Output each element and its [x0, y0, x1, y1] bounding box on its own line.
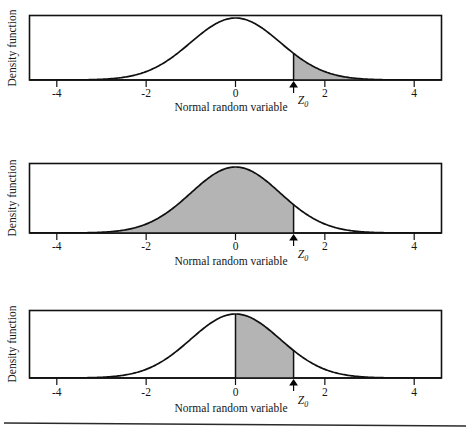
z0-arrow-head: [290, 380, 297, 385]
panel-1: -4-2024 Normal random variable Z0 Densit…: [6, 9, 442, 113]
panel-2-ticks: [57, 233, 414, 240]
panel-1-ticks: [57, 80, 414, 87]
axis-tick-label: 2: [322, 87, 328, 99]
axis-tick-label: -4: [52, 386, 62, 398]
panel-3-z0-label: Z0: [298, 394, 308, 409]
panel-2-z-subscript: 0: [304, 254, 308, 263]
axis-tick-label: 0: [233, 240, 239, 252]
axis-tick-label: 2: [322, 240, 328, 252]
axis-tick-label: 4: [411, 87, 417, 99]
axis-tick-label: 0: [233, 87, 239, 99]
panel-1-z-subscript: 0: [304, 100, 308, 109]
panel-1-tick-labels: -4-2024: [52, 87, 417, 99]
panel-1-z0-arrow: [290, 82, 297, 93]
axis-tick-label: 4: [411, 386, 417, 398]
panel-1-frame: [30, 16, 442, 81]
axis-tick-label: 0: [233, 386, 239, 398]
axis-tick-label: -2: [141, 87, 151, 99]
normal-distribution-figure: -4-2024 Normal random variable Z0 Densit…: [0, 0, 470, 434]
panel-2-y-axis-label: Density function: [6, 159, 19, 236]
panel-2-x-axis-label: Normal random variable: [174, 255, 287, 267]
panel-3-x-axis-label: Normal random variable: [174, 402, 287, 414]
panel-1-x-axis-label: Normal random variable: [174, 101, 287, 113]
panel-2-z0-label: Z0: [298, 248, 308, 263]
axis-tick-label: 4: [411, 240, 417, 252]
axis-tick-label: -2: [141, 386, 151, 398]
panel-3-tick-labels: -4-2024: [52, 386, 417, 398]
panel-1-y-axis-label: Density function: [6, 9, 19, 86]
axis-tick-label: -4: [52, 87, 62, 99]
panel-3-z0-arrow: [290, 380, 297, 391]
figure-root: -4-2024 Normal random variable Z0 Densit…: [0, 0, 470, 434]
z0-arrow-head: [290, 235, 297, 240]
panel-3: -4-2024 Normal random variable Z0 Densit…: [6, 305, 442, 414]
panel-2: -4-2024 Normal random variable Z0 Densit…: [6, 159, 442, 267]
axis-tick-label: 2: [322, 386, 328, 398]
z0-arrow-head: [290, 82, 297, 87]
bottom-divider-rule: [4, 423, 466, 426]
panel-2-tick-labels: -4-2024: [52, 240, 417, 252]
axis-tick-label: -4: [52, 240, 62, 252]
panel-2-z0-arrow: [290, 235, 297, 246]
panel-3-y-axis-label: Density function: [6, 305, 19, 382]
panel-3-ticks: [57, 378, 414, 385]
axis-tick-label: -2: [141, 240, 151, 252]
panel-3-z-subscript: 0: [304, 400, 308, 409]
panel-1-z0-label: Z0: [298, 94, 308, 109]
